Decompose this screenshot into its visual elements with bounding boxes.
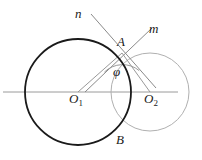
label-line-m: m — [149, 22, 158, 35]
label-center-o2-subscript: 2 — [153, 98, 158, 108]
label-line-n: n — [75, 7, 82, 20]
label-center-o1-base: O — [69, 91, 78, 106]
label-center-o1: O1 — [69, 92, 83, 105]
label-point-b: B — [116, 133, 124, 146]
geometry-figure: n m A φ B O1 O2 — [0, 0, 202, 160]
label-angle-phi: φ — [113, 65, 120, 78]
label-center-o2-base: O — [144, 91, 153, 106]
label-center-o2: O2 — [144, 92, 158, 105]
segment-a-o2 — [122, 53, 150, 92]
label-center-o1-subscript: 1 — [78, 98, 83, 108]
label-point-a: A — [117, 35, 125, 48]
figure-canvas — [0, 0, 202, 160]
